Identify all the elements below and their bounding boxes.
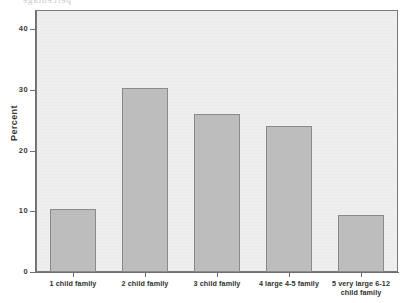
x-tick-label-line: 3 child family [177,279,257,288]
y-axis-title: Percent [9,93,19,153]
x-tick-mark [361,272,362,277]
x-tick-label-line: 4 large 4-5 family [249,279,329,288]
x-tick-mark [217,272,218,277]
scan-bleed-top-text: percentage [22,0,71,5]
y-tick-30: 30 [0,90,36,91]
bar-series [37,11,397,272]
y-tick-mark [30,151,36,152]
y-tick-10: 10 [0,211,36,212]
bar [194,114,240,272]
bar-chart-figure: percentage Don't Look At Me My Family Is… [0,0,407,303]
x-tick-label-line: 1 child family [33,279,113,288]
y-tick-mark [30,211,36,212]
y-tick-label: 30 [19,85,28,94]
y-tick-mark [30,29,36,30]
bar [122,88,168,272]
x-tick-mark [73,272,74,277]
bar [338,215,384,272]
x-tick-mark [289,272,290,277]
y-tick-label: 0 [23,267,28,276]
x-tick-label: 4 large 4-5 family [249,279,329,288]
y-tick-mark [30,90,36,91]
y-tick-label: 10 [19,206,28,215]
x-tick-label-line: child family [321,288,401,297]
bar [266,126,312,272]
x-tick-mark [145,272,146,277]
x-tick-label: 3 child family [177,279,257,288]
y-axis-line [35,10,36,273]
x-tick-label: 5 very large 6-12child family [321,279,401,297]
bar [50,209,96,272]
y-tick-40: 40 [0,29,36,30]
x-tick-label: 2 child family [105,279,185,288]
x-axis-line [30,272,399,273]
x-tick-label: 1 child family [33,279,113,288]
y-tick-label: 20 [19,146,28,155]
y-tick-0: 0 [0,272,36,273]
y-tick-mark [30,272,36,273]
y-tick-label: 40 [19,24,28,33]
y-tick-20: 20 [0,151,36,152]
x-tick-label-line: 2 child family [105,279,185,288]
x-tick-label-line: 5 very large 6-12 [321,279,401,288]
